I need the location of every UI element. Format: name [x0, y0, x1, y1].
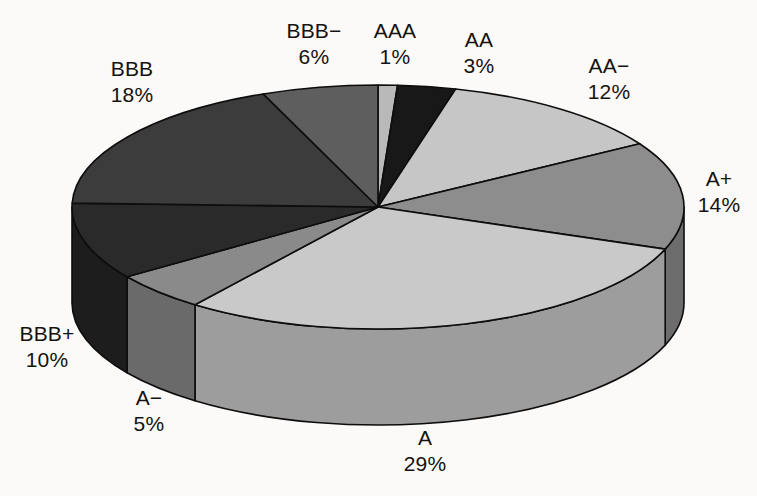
slice-label-aaa: AAA 1% — [363, 18, 427, 70]
slice-label-a-value: 29% — [398, 451, 452, 477]
slice-label-a-name: A — [398, 425, 452, 451]
slice-label-a-minus: A− 5% — [120, 385, 178, 437]
pie-chart-page: BBB 18% BBB− 6% AAA 1% AA 3% AA− 12% A+ … — [0, 0, 757, 496]
slice-label-a-minus-value: 5% — [120, 411, 178, 437]
slice-label-aa: AA 3% — [452, 27, 506, 79]
slice-label-bbb-name: BBB — [97, 56, 167, 82]
slice-label-a-plus-name: A+ — [690, 166, 748, 192]
slice-label-aa-name: AA — [452, 27, 506, 53]
slice-label-bbb-minus: BBB− 6% — [274, 18, 354, 70]
slice-label-aa-value: 3% — [452, 53, 506, 79]
slice-label-bbb: BBB 18% — [97, 56, 167, 108]
slice-label-aaa-name: AAA — [363, 18, 427, 44]
slice-label-bbb-plus-name: BBB+ — [6, 321, 88, 347]
slice-label-bbb-plus: BBB+ 10% — [6, 321, 88, 373]
slice-label-a: A 29% — [398, 425, 452, 477]
slice-label-a-plus: A+ 14% — [690, 166, 748, 218]
slice-label-aaa-value: 1% — [363, 44, 427, 70]
slice-label-bbb-minus-value: 6% — [274, 44, 354, 70]
slice-label-aa-minus: AA− 12% — [574, 53, 644, 105]
slice-label-bbb-minus-name: BBB− — [274, 18, 354, 44]
slice-label-bbb-plus-value: 10% — [6, 347, 88, 373]
slice-label-aa-minus-value: 12% — [574, 79, 644, 105]
slice-label-bbb-value: 18% — [97, 82, 167, 108]
pie-top-surface — [72, 85, 684, 329]
slice-label-a-plus-value: 14% — [690, 192, 748, 218]
slice-label-a-minus-name: A− — [120, 385, 178, 411]
slice-label-aa-minus-name: AA− — [574, 53, 644, 79]
